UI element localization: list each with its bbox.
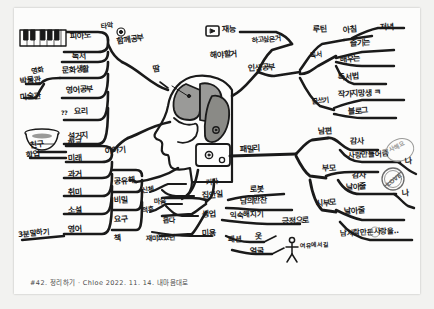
label-learning: 배우는 <box>340 55 361 64</box>
piano-keyboard-icon <box>20 30 66 46</box>
label-evening: 저녁 <box>380 23 394 32</box>
label-getting-used-to: 익숙해지기 <box>230 210 264 219</box>
label-blog: 블로그 <box>348 107 369 116</box>
label-school: 학교 <box>68 139 82 148</box>
label-morning: 아침 <box>343 26 357 35</box>
label-thanks-1: 감사 <box>350 137 364 146</box>
label-etc: 기타 <box>206 179 218 187</box>
label-hobby: 취미 <box>68 188 82 197</box>
label-fashion: 패션 <box>228 235 242 243</box>
label-fly-1: 날아줄 <box>346 183 367 192</box>
label-talent: 재능 <box>222 25 236 34</box>
label-piano: 피아노 <box>70 32 91 41</box>
label-livelihood: 생업 <box>202 210 216 219</box>
label-thanks-2: 감사 <box>352 171 366 180</box>
label-was-fun: 재미있었던 <box>146 235 175 243</box>
label-fly-2: 날아줄 <box>344 207 365 216</box>
label-me-2: 나 <box>402 189 409 198</box>
caption: #42. 정리하기 · Chloe 2022. 11. 14. 내마음대로 <box>30 277 189 287</box>
label-reading-right: 독서 <box>310 52 322 60</box>
label-robot: 로봇 <box>250 185 264 194</box>
label-others-side-dish: 남의반찬 <box>240 197 267 206</box>
label-cooking-prefix: ?? <box>61 110 67 116</box>
label-routine: 루틴 <box>313 25 327 34</box>
label-reading-method: 독서법 <box>338 73 359 82</box>
stick-figure-icon <box>286 237 298 262</box>
label-clothes: 옷 <box>255 233 262 241</box>
label-future: 미래 <box>68 154 82 163</box>
label-percussion: 타악 <box>101 23 113 31</box>
label-parents: 부모 <box>322 164 336 173</box>
mindmap-page: 타악 피아노 독서 문화생활 영어공부 ?? 요리 설거지 영화 박물관 미술관… <box>0 0 434 309</box>
head-profile-icon <box>155 76 232 199</box>
label-face: 얼굴 <box>250 247 264 256</box>
label-past: 과거 <box>68 170 82 179</box>
label-me-1: 나 <box>405 157 412 166</box>
label-sweat: 땀 <box>152 65 160 74</box>
label-secret: 비밀 <box>114 196 128 205</box>
label-book: 책 <box>114 235 121 243</box>
label-family: 패밀리 <box>240 145 261 154</box>
play-button-icon <box>206 26 219 36</box>
label-enjoying: 즐기는 <box>350 39 371 48</box>
label-english: 영어 <box>68 225 82 234</box>
label-housework: 집안일 <box>202 191 223 200</box>
label-reading-left: 독서 <box>72 52 86 61</box>
label-need: 요구 <box>114 215 128 224</box>
label-share: 공유해 <box>114 177 135 186</box>
label-novel: 소설 <box>68 206 82 215</box>
label-help: 돕다 <box>163 217 175 225</box>
label-academics: 학업 <box>26 151 40 160</box>
label-friend: 친구 <box>30 141 44 150</box>
label-cooking: 요리 <box>74 107 88 116</box>
label-beauty: 미용 <box>202 229 216 238</box>
label-husband: 남편 <box>318 127 332 136</box>
label-in-laws: 시부모 <box>316 199 337 208</box>
label-mind: 마음 <box>154 198 166 206</box>
